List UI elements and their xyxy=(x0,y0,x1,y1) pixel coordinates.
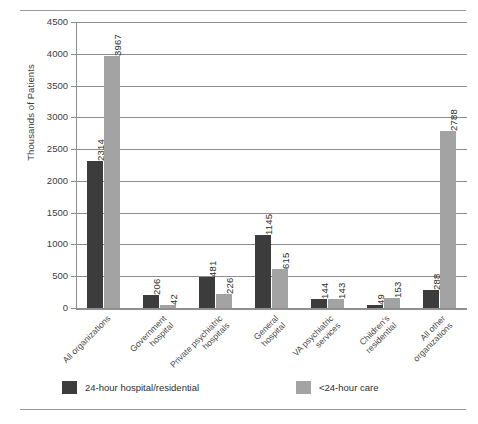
y-axis-tick-label: 3500 xyxy=(28,80,68,91)
bar: 3967 xyxy=(104,56,120,308)
y-axis-tick xyxy=(71,213,77,214)
bar: 1145 xyxy=(255,235,271,308)
bar-value-label: 42 xyxy=(168,294,179,305)
gridline xyxy=(76,54,467,55)
bar-value-label: 206 xyxy=(151,278,162,294)
bar: 2788 xyxy=(440,131,456,308)
y-axis-tick-label: 0 xyxy=(28,302,68,313)
bar: 49 xyxy=(367,305,383,308)
top-divider xyxy=(20,10,466,11)
bar: 615 xyxy=(272,269,288,308)
y-axis-line xyxy=(76,22,77,309)
bar-value-label: 1145 xyxy=(263,214,274,235)
gridline xyxy=(76,22,467,23)
bar-value-label: 2788 xyxy=(448,109,459,131)
bar: 153 xyxy=(384,298,400,308)
y-axis-tick-label: 1500 xyxy=(28,207,68,218)
gridline xyxy=(76,181,467,182)
bar: 143 xyxy=(328,299,344,308)
bar: 226 xyxy=(216,294,232,308)
y-axis-tick xyxy=(71,86,77,87)
bar: 206 xyxy=(143,295,159,308)
y-axis-tick xyxy=(71,276,77,277)
bar-value-label: 3967 xyxy=(112,34,123,56)
bar-value-label: 481 xyxy=(207,261,218,277)
y-axis-tick xyxy=(71,54,77,55)
y-axis-tick xyxy=(71,308,77,309)
bar-value-label: 143 xyxy=(336,282,347,298)
bar-value-label: 153 xyxy=(392,282,403,298)
bar-value-label: 615 xyxy=(280,252,291,268)
y-axis-tick-label: 4000 xyxy=(28,48,68,59)
y-axis-tick-label: 2500 xyxy=(28,143,68,154)
y-axis-tick xyxy=(71,117,77,118)
y-axis-tick-label: 3000 xyxy=(28,111,68,122)
y-axis-tick-label: 1000 xyxy=(28,238,68,249)
y-axis-tick xyxy=(71,181,77,182)
chart-legend: 24-hour hospital/residential<24-hour car… xyxy=(0,381,478,399)
gridline xyxy=(76,244,467,245)
bar: 2314 xyxy=(87,161,103,308)
plot-area: 4500400035003000250020001500100050002314… xyxy=(76,22,467,308)
y-axis-tick-label: 2000 xyxy=(28,175,68,186)
y-axis-tick-label: 4500 xyxy=(28,16,68,27)
gridline xyxy=(76,117,467,118)
y-axis-tick xyxy=(71,244,77,245)
bar-value-label: 226 xyxy=(224,277,235,293)
y-axis-tick xyxy=(71,149,77,150)
bar: 42 xyxy=(160,305,176,308)
legend-swatch xyxy=(62,381,77,394)
y-axis-tick xyxy=(71,22,77,23)
gridline xyxy=(76,149,467,150)
bar: 144 xyxy=(311,299,327,308)
y-axis-tick-label: 500 xyxy=(28,270,68,281)
bar-value-label: 144 xyxy=(319,282,330,298)
bar: 481 xyxy=(199,277,215,308)
gridline xyxy=(76,308,467,309)
chart-figure: Thousands of Patients 450040003500300025… xyxy=(0,0,478,424)
bar: 288 xyxy=(423,290,439,308)
gridline xyxy=(76,86,467,87)
